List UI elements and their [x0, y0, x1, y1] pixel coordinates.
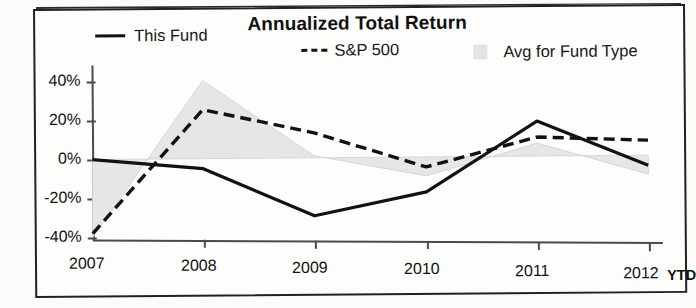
- chart-content: Annualized Total Return This Fund S&P 50…: [33, 4, 683, 294]
- x-tick-2008: [204, 240, 206, 248]
- x-tick-2012: [649, 243, 651, 251]
- x-axis-label-2009: 2009: [292, 259, 328, 277]
- x-axis-label-2011: 2011: [515, 262, 550, 280]
- x-tick-2011: [538, 242, 540, 250]
- x-axis-label-2012: 2012: [623, 264, 659, 282]
- x-axis-label-ytd: YTD: [667, 267, 696, 283]
- x-axis-label-2007: 2007: [69, 254, 105, 272]
- x-axis-label-2008: 2008: [181, 257, 217, 275]
- x-tick-2010: [427, 241, 429, 249]
- area-avg-fund-type: [92, 77, 649, 237]
- x-tick-2009: [315, 241, 317, 249]
- series-plot: [33, 4, 683, 294]
- x-axis-label-2010: 2010: [404, 260, 440, 278]
